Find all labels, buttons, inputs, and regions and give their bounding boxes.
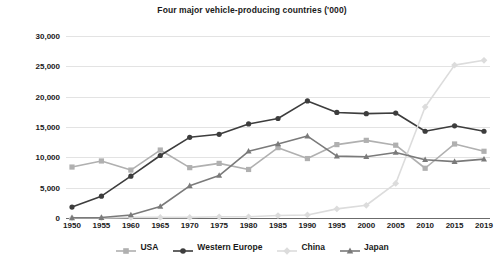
x-axis: 1950195519601965197019751980198519901995… xyxy=(66,221,490,235)
x-axis-tick-label: 1975 xyxy=(210,221,228,230)
x-axis-tick-label: 2019 xyxy=(475,221,493,230)
data-point-marker xyxy=(158,153,163,158)
x-axis-tick-label: 2005 xyxy=(387,221,405,230)
x-axis-tick-label: 1965 xyxy=(151,221,169,230)
plot-area xyxy=(66,36,490,218)
x-axis-tick-label: 2010 xyxy=(416,221,434,230)
legend-item-usa[interactable]: USA xyxy=(115,242,158,252)
data-point-marker xyxy=(305,98,310,103)
legend-swatch-icon xyxy=(115,242,137,252)
x-axis-tick-label: 1960 xyxy=(122,221,140,230)
legend-item-label: Japan xyxy=(364,242,389,252)
data-point-marker xyxy=(128,167,133,172)
legend-item-western-europe[interactable]: Western Europe xyxy=(172,242,262,252)
data-point-marker xyxy=(334,142,339,147)
x-axis-tick-label: 1980 xyxy=(240,221,258,230)
y-axis-tick-label: 25,000 xyxy=(6,62,60,71)
data-point-marker xyxy=(99,158,104,163)
data-point-marker xyxy=(275,212,282,219)
data-point-marker xyxy=(452,123,457,128)
data-point-marker xyxy=(158,147,163,152)
data-point-marker xyxy=(217,132,222,137)
data-point-marker xyxy=(393,110,398,115)
data-point-marker xyxy=(69,204,74,209)
legend-item-label: USA xyxy=(140,242,158,252)
y-axis: 05,00010,00015,00020,00025,00030,000 xyxy=(0,36,60,218)
data-point-marker xyxy=(216,213,223,220)
data-point-marker xyxy=(452,141,457,146)
data-point-marker xyxy=(334,110,339,115)
data-point-marker xyxy=(186,214,193,221)
series-line xyxy=(72,60,484,218)
data-point-marker xyxy=(393,143,398,148)
y-axis-tick-label: 10,000 xyxy=(6,153,60,162)
data-point-marker xyxy=(423,166,428,171)
y-axis-tick-label: 5,000 xyxy=(6,183,60,192)
legend-swatch-icon xyxy=(339,242,361,252)
data-point-marker xyxy=(128,174,133,179)
data-point-marker xyxy=(284,247,291,254)
data-point-marker xyxy=(304,133,310,139)
series-layer xyxy=(66,36,490,218)
y-axis-tick-label: 15,000 xyxy=(6,123,60,132)
x-axis-tick-label: 1970 xyxy=(181,221,199,230)
legend-item-label: Western Europe xyxy=(197,242,262,252)
data-point-marker xyxy=(423,129,428,134)
legend-item-china[interactable]: China xyxy=(276,242,325,252)
data-point-marker xyxy=(69,164,74,169)
x-axis-tick-label: 1950 xyxy=(63,221,81,230)
data-point-marker xyxy=(245,213,252,220)
x-axis-tick-label: 1955 xyxy=(93,221,111,230)
data-point-marker xyxy=(246,167,251,172)
data-point-marker xyxy=(157,214,164,221)
x-axis-tick-label: 1985 xyxy=(269,221,287,230)
data-point-marker xyxy=(124,248,130,254)
data-point-marker xyxy=(246,121,251,126)
data-point-marker xyxy=(181,248,187,254)
legend-item-japan[interactable]: Japan xyxy=(339,242,389,252)
series-western-europe xyxy=(69,98,486,209)
chart-legend: USAWestern EuropeChinaJapan xyxy=(0,242,504,252)
data-point-marker xyxy=(187,165,192,170)
x-axis-tick-label: 1995 xyxy=(328,221,346,230)
data-point-marker xyxy=(481,57,488,64)
legend-swatch-icon xyxy=(172,242,194,252)
data-point-marker xyxy=(99,194,104,199)
data-point-marker xyxy=(333,206,340,213)
data-point-marker xyxy=(187,135,192,140)
chart-title: Four major vehicle-producing countries (… xyxy=(0,5,504,15)
series-china xyxy=(69,57,488,221)
legend-swatch-icon xyxy=(276,242,298,252)
data-point-marker xyxy=(304,212,311,219)
chart-container: Four major vehicle-producing countries (… xyxy=(0,0,504,264)
legend-item-label: China xyxy=(301,242,325,252)
x-axis-tick-label: 1990 xyxy=(299,221,317,230)
data-point-marker xyxy=(364,111,369,116)
data-point-marker xyxy=(481,129,486,134)
data-point-marker xyxy=(481,149,486,154)
data-point-marker xyxy=(217,161,222,166)
data-point-marker xyxy=(275,116,280,121)
y-axis-tick-label: 30,000 xyxy=(6,32,60,41)
data-point-marker xyxy=(364,138,369,143)
x-axis-tick-label: 2000 xyxy=(357,221,375,230)
y-axis-tick-label: 20,000 xyxy=(6,92,60,101)
x-axis-tick-label: 2015 xyxy=(446,221,464,230)
y-axis-tick-label: 0 xyxy=(6,214,60,223)
data-point-marker xyxy=(305,156,310,161)
